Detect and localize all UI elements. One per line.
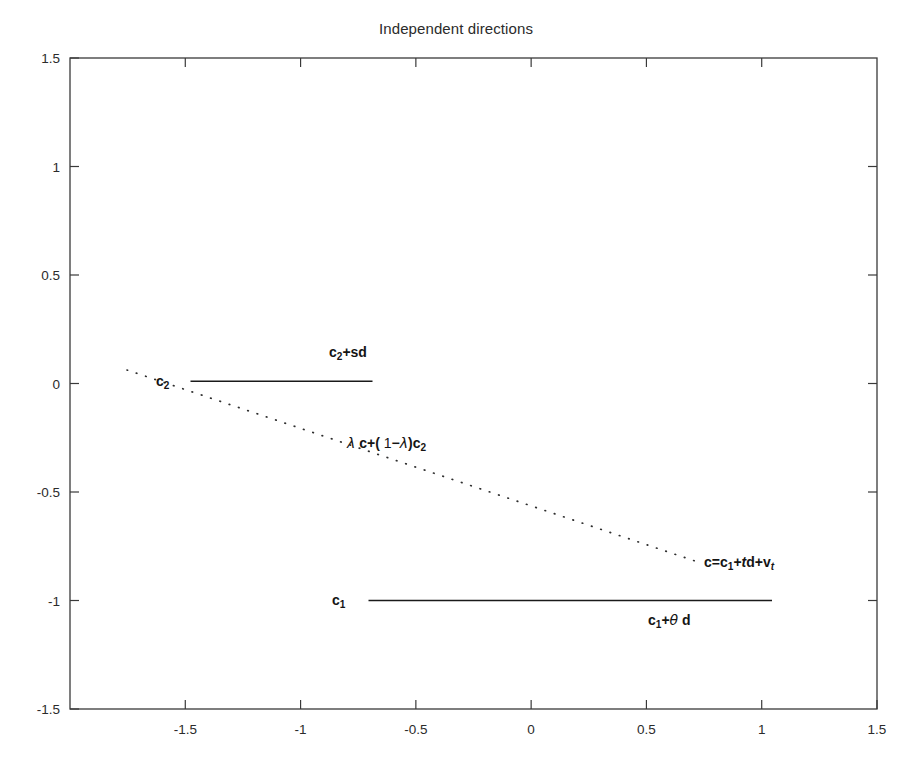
x-tick-label: -1 (295, 722, 307, 737)
y-tick-label: 1 (10, 159, 60, 174)
y-tick-label: 1.5 (10, 51, 60, 66)
annotation-c1-plus-theta-d: c1+θ d (648, 613, 691, 630)
x-tick-marks (185, 58, 877, 709)
x-tick-label: -0.5 (404, 722, 427, 737)
y-tick-label: 0.5 (10, 268, 60, 283)
y-tick-label: -1 (10, 593, 60, 608)
y-tick-label: -1.5 (10, 702, 60, 717)
y-tick-marks (70, 58, 877, 709)
annotation-c1: c1 (332, 593, 345, 610)
axes-frame (70, 58, 877, 709)
dotted-lambda-line (127, 370, 701, 563)
annotation-c2: c2 (156, 374, 169, 391)
annotation-lambda-combination: λ c+( 1−λ)c2 (347, 436, 426, 453)
x-tick-label: 1.5 (868, 722, 887, 737)
annotation-c-equals-c1-plus-td-plus-vt: c=c1+td+vt (704, 555, 774, 572)
x-tick-label: 0.5 (637, 722, 656, 737)
annotation-c2-plus-sd: c2+sd (329, 345, 367, 362)
x-tick-label: -1.5 (174, 722, 197, 737)
y-tick-label: -0.5 (10, 485, 60, 500)
x-tick-label: 0 (527, 722, 535, 737)
figure-canvas: Independent directions (0, 0, 912, 769)
plot-area (0, 0, 912, 769)
y-tick-label: 0 (10, 376, 60, 391)
x-tick-label: 1 (758, 722, 766, 737)
